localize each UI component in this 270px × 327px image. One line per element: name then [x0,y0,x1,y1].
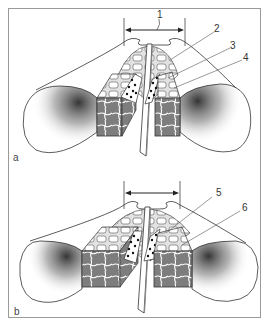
panel-b-diagram [20,181,258,313]
callout-5: 5 [216,188,222,198]
callout-6: 6 [242,203,248,213]
callout-1: 1 [157,10,163,20]
panel-a-diagram [23,18,251,156]
panel-label-b: b [14,307,20,317]
callout-2: 2 [214,24,220,34]
callout-3: 3 [230,41,236,51]
panel-label-a: a [13,153,19,163]
callout-4: 4 [243,53,249,63]
